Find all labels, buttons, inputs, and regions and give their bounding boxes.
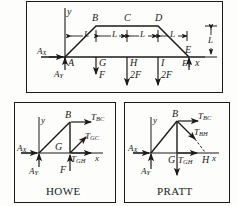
- joint-label-h: H: [130, 58, 137, 68]
- dim-label-hi: L: [140, 30, 145, 39]
- pratt-reaction-label-ay: AY: [141, 167, 150, 177]
- howe-axis-label-x: x: [95, 154, 99, 163]
- howe-force-label-tgh: TGH: [71, 155, 85, 165]
- pratt-force-label-tgh: TGH: [178, 156, 192, 166]
- howe-joint-panel: y x B G AX AY F TBC TGC TGH HOWE: [14, 102, 116, 203]
- howe-force-arrow-tgc: [70, 137, 86, 153]
- pratt-axis-label-y: y: [153, 116, 157, 125]
- howe-reaction-label-ay: AY: [29, 167, 38, 177]
- reaction-label-ay: AY: [54, 70, 63, 80]
- howe-load-label-f: F: [60, 165, 66, 175]
- pratt-force-arrow-tbh: [177, 121, 195, 139]
- pratt-joint-label-g: G: [168, 155, 175, 165]
- howe-force-label-tgc: TGC: [85, 132, 99, 142]
- main-truss-panel: y x A B C D E G H I L L L L L AX AY EY F…: [26, 1, 223, 93]
- axis-label-x: x: [195, 58, 199, 68]
- joint-label-a: A: [68, 58, 74, 68]
- axis-label-y: y: [67, 7, 71, 17]
- pratt-force-label-tbc: TBC: [198, 112, 211, 122]
- dim-label-ie: L: [170, 30, 175, 39]
- reaction-label-ax: AX: [37, 47, 46, 57]
- load-label-h: 2F: [130, 70, 141, 80]
- dim-label-gh: L: [112, 30, 117, 39]
- pratt-joint-panel: y x B G H AX AY TBC TBH TGH PRATT: [124, 102, 230, 203]
- dim-label-height: L: [208, 36, 213, 45]
- load-label-i: 2F: [161, 70, 172, 80]
- pratt-caption: PRATT: [157, 185, 193, 197]
- howe-force-label-tbc: TBC: [91, 113, 104, 123]
- joint-label-b: B: [92, 13, 98, 23]
- pratt-member-ab: [151, 121, 177, 153]
- joint-label-c: C: [124, 13, 131, 23]
- joint-label-i: I: [161, 58, 164, 68]
- joint-label-d: D: [155, 13, 162, 23]
- howe-caption: HOWE: [46, 185, 81, 197]
- pratt-member-dashed-bh: [195, 139, 205, 152]
- pratt-reaction-label-ax: AX: [128, 144, 137, 154]
- joint-label-e: E: [185, 45, 191, 55]
- howe-joint-label-g: G: [55, 142, 62, 152]
- pratt-joint-label-b: B: [172, 109, 178, 119]
- joint-label-g: G: [99, 58, 106, 68]
- pratt-axis-label-x: x: [212, 154, 216, 163]
- howe-joint-label-b: B: [65, 110, 71, 120]
- pratt-joint-label-h: H: [202, 155, 209, 165]
- pratt-force-label-tbh: TBH: [194, 128, 208, 138]
- reaction-label-ey: EY: [182, 59, 191, 69]
- howe-reaction-label-ax: AX: [17, 144, 26, 154]
- howe-axis-label-y: y: [41, 116, 45, 125]
- load-label-g: F: [99, 70, 105, 80]
- dim-label-ag: L: [84, 30, 89, 39]
